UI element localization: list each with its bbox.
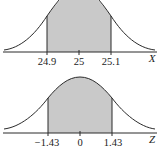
top-shaded-region <box>47 0 111 52</box>
bottom-chart: −1.43 0 1.43 Z <box>3 77 157 148</box>
bottom-tick-label-right: 1.43 <box>104 137 122 148</box>
bottom-shaded-region <box>48 77 112 133</box>
top-tick-label-right: 25.1 <box>102 56 120 67</box>
top-chart: 24.9 25 25.1 X <box>3 0 157 67</box>
bottom-tick-label-center: 0 <box>77 137 82 148</box>
top-axis-label: X <box>148 52 157 64</box>
bottom-axis-label: Z <box>149 133 156 145</box>
bottom-tick-label-left: −1.43 <box>35 137 59 148</box>
top-tick-label-center: 25 <box>74 56 85 67</box>
top-tick-label-left: 24.9 <box>38 56 56 67</box>
normal-distribution-diagrams: 24.9 25 25.1 X −1.43 0 1.43 Z <box>0 0 159 149</box>
